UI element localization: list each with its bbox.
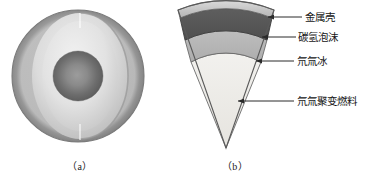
caption-panel-a: （a） (0, 158, 160, 173)
figure-container: （a） (0, 0, 368, 186)
label-dt-ice: 氘氚冰 (297, 56, 327, 67)
leader-metal-shell (268, 15, 302, 20)
panel-a-cutaway-sphere: （a） (0, 0, 170, 186)
label-hydrocarbon-foam: 碳氢泡沫 (298, 32, 338, 43)
leader-dt-ice (256, 59, 294, 64)
cutaway-sphere-graphic (8, 4, 160, 154)
leader-dt-fusion-fuel (238, 99, 294, 104)
label-dt-fusion-fuel: 氘氚聚变燃料 (297, 96, 357, 107)
leader-hydrocarbon-foam (262, 35, 296, 40)
label-metal-shell: 金属壳 (305, 12, 335, 23)
caption-panel-b: （b） (180, 158, 290, 173)
panel-b-wedge: （b） (170, 0, 368, 186)
